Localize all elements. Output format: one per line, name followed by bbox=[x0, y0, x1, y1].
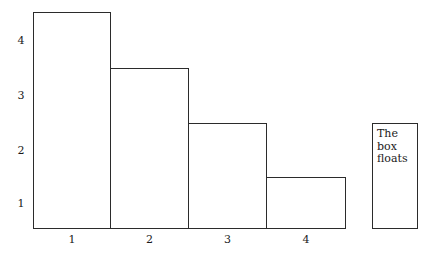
x-tick-label-4: 4 bbox=[266, 234, 346, 245]
y-tick-label-2: 2 bbox=[11, 145, 31, 156]
y-tick-label-4: 4 bbox=[11, 35, 31, 46]
bar-category-3 bbox=[188, 123, 267, 229]
figure-canvas: 4 3 2 1 1 2 3 4 The box floats bbox=[0, 0, 438, 253]
bar-category-2 bbox=[110, 68, 189, 229]
floating-annotation-box: The box floats bbox=[372, 123, 418, 229]
x-tick-label-1: 1 bbox=[33, 234, 111, 245]
x-tick-label-2: 2 bbox=[110, 234, 189, 245]
y-tick-label-1: 1 bbox=[11, 198, 31, 209]
floating-box-line-3: floats bbox=[377, 153, 417, 166]
x-tick-label-3: 3 bbox=[188, 234, 267, 245]
bar-category-1 bbox=[33, 12, 111, 229]
floating-box-line-1: The bbox=[377, 128, 417, 141]
y-tick-label-3: 3 bbox=[11, 90, 31, 101]
floating-box-text: The box floats bbox=[377, 128, 417, 166]
bar-category-4 bbox=[266, 177, 346, 229]
bar-chart-plot-area: 4 3 2 1 1 2 3 4 bbox=[0, 0, 360, 253]
